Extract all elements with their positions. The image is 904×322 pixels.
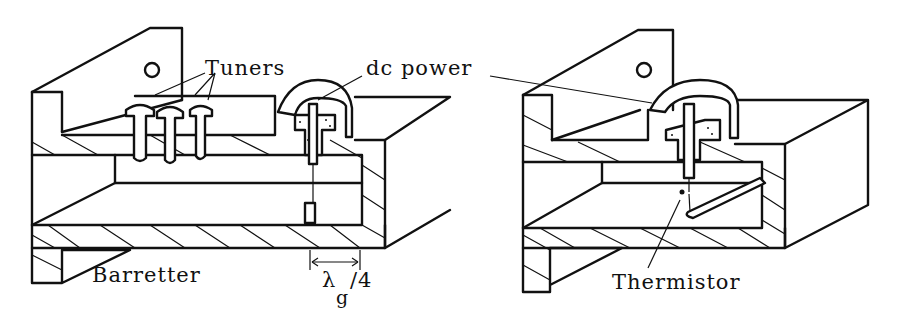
lambda-subscript: g [336,286,348,308]
dc-power-connector [278,80,352,223]
thermistor-mount-drawing [490,30,868,292]
tuners-label: Tuners [205,56,285,80]
lambda-divisor: /4 [350,268,372,292]
tuner-screws [126,105,212,163]
thermistor-label: Thermistor [612,270,741,294]
dc-power-label: dc power [366,56,472,80]
lambda-label: λ [322,268,336,292]
barretter-label: Barretter [92,263,201,287]
